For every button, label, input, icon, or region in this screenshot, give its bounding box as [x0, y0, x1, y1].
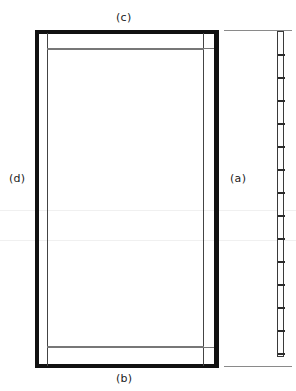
edge-section-tick — [278, 284, 285, 286]
edge-section-tick — [278, 330, 285, 332]
callout-label-top: (c) — [116, 11, 132, 24]
callout-label-bottom: (b) — [116, 372, 132, 385]
edge-section-tick — [278, 261, 285, 263]
edge-section-tick — [278, 169, 285, 171]
edge-section-tick — [278, 123, 285, 125]
edge-section-tick — [278, 353, 285, 355]
edge-section-tick — [278, 192, 285, 194]
edge-section-tick — [278, 77, 285, 79]
scan-artifact-line — [0, 240, 296, 241]
edge-section-tick — [278, 238, 285, 240]
callout-label-left: (d) — [9, 172, 25, 185]
inner-rail-bottom-continuation — [204, 347, 214, 348]
scan-artifact-line — [0, 210, 296, 211]
frame-edge-section — [277, 31, 284, 357]
edge-section-tick — [278, 100, 285, 102]
frame-bottom-rail — [35, 364, 219, 368]
inner-panel-right-edge — [203, 33, 204, 366]
inner-panel-top-rail — [47, 48, 204, 50]
inner-panel-left-edge — [47, 33, 48, 366]
edge-section-tick — [278, 54, 285, 56]
edge-section-tick — [278, 215, 285, 217]
inner-panel-bottom-rail — [47, 346, 204, 348]
frame-left-stile — [35, 30, 39, 368]
technical-drawing-canvas: (c) (b) (d) (a) — [0, 0, 296, 391]
callout-label-right: (a) — [230, 172, 246, 185]
edge-section-tick — [278, 307, 285, 309]
edge-section-tick — [278, 146, 285, 148]
projection-line-bottom — [224, 366, 292, 367]
inner-rail-top-continuation — [204, 48, 214, 49]
frame-right-stile — [214, 30, 219, 368]
frame-top-rail — [35, 30, 219, 34]
